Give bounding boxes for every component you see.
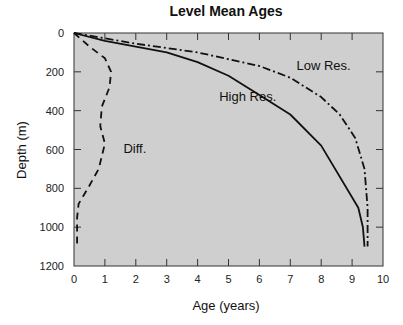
y-axis-label: Depth (m) xyxy=(14,121,29,179)
x-tick-label: 6 xyxy=(256,273,262,285)
x-tick-label: 5 xyxy=(225,273,231,285)
annotation-label: High Res. xyxy=(219,89,276,104)
y-tick-labels: 020040060080010001200 xyxy=(40,27,64,272)
annotation-label: Diff. xyxy=(123,141,146,156)
x-tick-label: 4 xyxy=(195,273,201,285)
y-tick-label: 0 xyxy=(58,27,64,39)
x-tick-label: 3 xyxy=(164,273,170,285)
x-tick-labels: 012345678910 xyxy=(71,273,389,285)
y-tick-label: 200 xyxy=(46,66,64,78)
chart: Level Mean Ages 012345678910 02004006008… xyxy=(0,0,403,325)
x-tick-label: 8 xyxy=(318,273,324,285)
y-tick-label: 400 xyxy=(46,105,64,117)
chart-title: Level Mean Ages xyxy=(169,3,282,19)
y-tick-label: 600 xyxy=(46,144,64,156)
x-tick-label: 1 xyxy=(102,273,108,285)
y-tick-label: 1200 xyxy=(40,260,64,272)
x-tick-label: 7 xyxy=(287,273,293,285)
y-tick-label: 1000 xyxy=(40,221,64,233)
x-tick-label: 2 xyxy=(133,273,139,285)
annotation-label: Low Res. xyxy=(296,58,350,73)
x-tick-label: 9 xyxy=(349,273,355,285)
y-tick-label: 800 xyxy=(46,182,64,194)
x-tick-label: 0 xyxy=(71,273,77,285)
x-tick-label: 10 xyxy=(377,273,389,285)
x-axis-label: Age (years) xyxy=(192,298,259,313)
